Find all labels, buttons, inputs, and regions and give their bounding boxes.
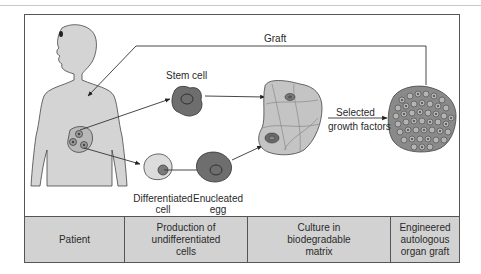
differentiated-cell-icon [144,154,172,180]
stage-culture-in-biodegradable-matrix: Culture in biodegradable matrix [248,217,391,262]
arrow-stem-cell-to-matrix [205,96,265,97]
enucleated-egg-label: Enucleated egg [190,193,246,215]
patient-silhouette-icon [31,25,127,186]
stage-production-of-undifferentiated-cells: Production of undifferentiated cells [125,217,248,262]
stage-engineered-autologous-organ-graft: Engineered autologous organ graft [391,217,459,262]
biodegradable-matrix-icon [259,81,322,155]
graft-label: Graft [264,33,286,44]
graft-arrow [88,46,426,96]
stem-cell-label: Stem cell [166,70,207,81]
selected-label: Selected [336,107,375,118]
differentiated-cell-label: Differentiated cell [128,193,198,215]
enucleated-egg-icon [196,152,231,182]
stem-cell-icon [172,86,202,116]
growth-factors-label: growth factors [328,121,391,132]
stage-band: Patient Production of undifferentiated c… [24,216,460,263]
arrow-egg-to-matrix [232,146,262,160]
stage-patient: Patient [25,217,125,262]
organ-graft-icon [388,86,456,152]
